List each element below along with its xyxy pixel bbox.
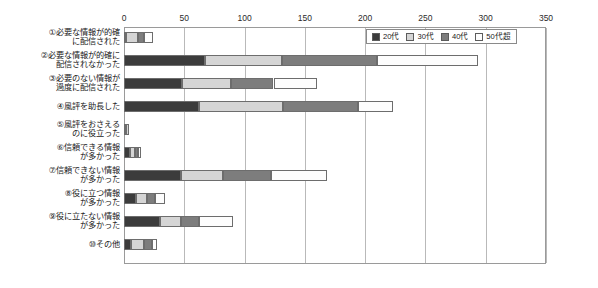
x-tick-150: 150 (298, 12, 312, 24)
bar-segment-2-30代 (205, 55, 282, 66)
category-label-2: ②必要な情報が的確に 配信されなかった (0, 51, 120, 70)
bar-segment-8-40代 (147, 193, 155, 204)
bar-segment-5-30代 (126, 124, 128, 135)
bar-row-6 (124, 147, 141, 158)
bar-segment-2-40代 (282, 55, 377, 66)
bar-segment-8-50代超 (155, 193, 165, 204)
legend-swatch-icon-30代 (406, 33, 414, 41)
bar-segment-2-20代 (124, 55, 205, 66)
category-label-7: ⑦信頼できない情報 が多かった (0, 166, 120, 185)
bar-segment-1-50代超 (144, 32, 152, 43)
category-label-10: ⑩その他 (0, 240, 120, 250)
x-tick-0: 0 (122, 12, 127, 24)
bar-segment-8-30代 (136, 193, 147, 204)
bar-segment-3-20代 (124, 78, 182, 89)
legend-label: 40代 (452, 32, 468, 41)
legend-item-40代[interactable]: 40代 (441, 32, 468, 41)
legend-label: 30代 (417, 32, 433, 41)
bar-segment-4-50代超 (358, 101, 393, 112)
bar-segment-9-20代 (124, 216, 160, 227)
bar-segment-4-20代 (124, 101, 199, 112)
category-label-8: ⑧役に立つ情報 が多かった (0, 189, 120, 208)
bar-segment-7-50代超 (271, 170, 326, 181)
bar-row-5 (124, 124, 129, 135)
x-tick-50: 50 (180, 12, 189, 24)
x-tick-200: 200 (358, 12, 372, 24)
x-axis-tick-labels: 050100150200250300350 (0, 12, 598, 26)
category-label-3: ③必要のない情報が 過度に配信された (0, 74, 120, 93)
bar-row-7 (124, 170, 327, 181)
x-tick-100: 100 (237, 12, 251, 24)
bar-row-4 (124, 101, 393, 112)
bar-segment-7-30代 (181, 170, 223, 181)
y-axis-category-labels: ①必要な情報が的確 に配信された②必要な情報が的確に 配信されなかった③必要のな… (0, 27, 122, 264)
legend-item-30代[interactable]: 30代 (406, 32, 433, 41)
x-tick-350: 350 (539, 12, 553, 24)
bar-segment-4-30代 (199, 101, 283, 112)
bar-segment-9-40代 (181, 216, 199, 227)
category-label-1: ①必要な情報が的確 に配信された (0, 28, 120, 47)
bar-row-10 (124, 239, 157, 250)
bar-row-3 (124, 78, 317, 89)
bar-segment-8-20代 (124, 193, 136, 204)
stacked-bar-chart: 050100150200250300350 ①必要な情報が的確 に配信された②必… (0, 0, 598, 288)
legend-swatch-icon-50代超 (475, 33, 483, 41)
bars-layer (124, 27, 546, 264)
bar-segment-1-30代 (126, 32, 138, 43)
bar-segment-9-50代超 (199, 216, 233, 227)
bar-segment-3-50代超 (274, 78, 317, 89)
category-label-4: ④風評を助長した (0, 102, 120, 112)
legend-swatch-icon-40代 (441, 33, 449, 41)
legend-item-50代超[interactable]: 50代超 (475, 32, 510, 41)
bar-row-1 (124, 32, 153, 43)
x-tick-300: 300 (479, 12, 493, 24)
bar-segment-3-30代 (182, 78, 231, 89)
category-label-5: ⑤風評をおさえる のに役立った (0, 120, 120, 139)
bar-row-9 (124, 216, 233, 227)
bar-segment-10-40代 (144, 239, 151, 250)
bar-segment-7-20代 (124, 170, 181, 181)
category-label-9: ⑨役に立たない情報 が多かった (0, 212, 120, 231)
gridline-350 (546, 28, 547, 263)
bar-segment-10-20代 (124, 239, 131, 250)
bar-segment-2-50代超 (377, 55, 478, 66)
legend-label: 50代超 (486, 32, 510, 41)
chart-legend: 20代30代40代50代超 (366, 29, 517, 44)
bar-segment-3-40代 (231, 78, 273, 89)
bar-segment-10-50代超 (152, 239, 157, 250)
category-label-6: ⑥信頼できる情報 が多かった (0, 143, 120, 162)
bar-row-2 (124, 55, 478, 66)
bar-segment-4-40代 (283, 101, 358, 112)
bar-segment-9-30代 (160, 216, 180, 227)
legend-swatch-icon-20代 (372, 33, 380, 41)
legend-item-20代[interactable]: 20代 (372, 32, 399, 41)
bar-segment-7-40代 (223, 170, 271, 181)
bar-segment-10-30代 (131, 239, 144, 250)
bar-segment-6-50代超 (138, 147, 140, 158)
x-tick-250: 250 (418, 12, 432, 24)
bar-row-8 (124, 193, 165, 204)
legend-label: 20代 (383, 32, 399, 41)
